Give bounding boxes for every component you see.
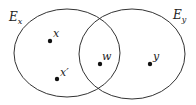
point-x-dot xyxy=(48,39,52,43)
point-xprime-dot xyxy=(55,77,59,81)
set-ey-label: Ey xyxy=(172,8,187,24)
set-ey-ellipse xyxy=(79,9,185,99)
set-ex-label: Ex xyxy=(8,10,23,26)
point-x-label: x xyxy=(53,27,60,40)
point-w-label: w xyxy=(102,50,112,63)
point-y-label: y xyxy=(152,50,160,63)
venn-diagram: Ex Ey x x′ w y xyxy=(0,0,196,105)
point-y-dot xyxy=(148,62,152,66)
point-xprime-label: x′ xyxy=(60,66,69,79)
